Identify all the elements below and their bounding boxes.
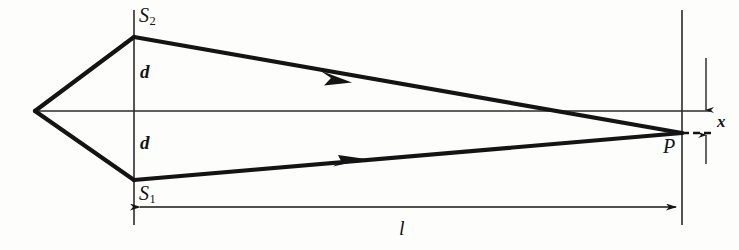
ray-lower-group [134,133,682,180]
label-screen-point-p: P [663,136,675,156]
label-half-separation-upper: d [140,62,150,81]
ray-upper-group [134,37,682,133]
label-half-separation-lower: d [140,133,150,152]
label-slit-s2-subscript: 2 [150,14,156,28]
label-slit-s2-letter: S [139,4,149,26]
source-to-upper-slit-line [35,37,134,111]
label-transverse-offset-x: x [717,113,726,130]
source-cone-group [35,37,134,180]
label-slit-s2: S2 [139,5,156,27]
label-slit-s1-letter: S [139,182,149,204]
ray-from-s2-to-p-line [134,37,682,133]
ray-from-s1-to-p-line [134,133,682,180]
label-slit-s1-subscript: 1 [150,192,156,206]
label-slit-s1: S1 [139,183,156,205]
ray-diagram-canvas [0,0,739,250]
label-screen-distance-l: l [399,218,405,238]
source-to-lower-slit-line [35,111,134,180]
ray-diagram-figure: S2 S1 d d P l x [0,0,739,250]
